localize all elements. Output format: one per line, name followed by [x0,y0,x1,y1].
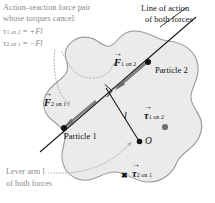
torque-2-on-1-symbol: τ [132,168,137,179]
force-1-on-2-symbol: F [114,57,121,68]
torque-1-on-2-out-of-page-dot [162,124,168,130]
equation-torque-2-on-1: τ2 on 1 = −Fl [3,39,43,48]
equation-torque-1-on-2: τ1 on 2 = +Fl [3,27,43,36]
annotation-bottom-left-line2: of both forces [6,179,52,189]
origin-dot [137,139,143,145]
annotation-top-right-line1: Line of action [141,3,189,14]
annotation-top-left-line2: whose torques cancel: [3,14,76,24]
equation-1-relation: = [23,27,28,36]
annotation-top-right-line2: of both forces [145,14,193,25]
equation-1-value: +Fl [30,27,43,36]
force-2-on-1-symbol: F [44,97,51,108]
into-page-icon: ✖ [121,171,128,180]
equation-1-subscript: 1 on 2 [6,29,20,35]
annotation-top-left-line1: Action–reaction force pair [3,3,91,13]
particle-2-dot [145,59,151,65]
force-2-on-1-label: F2 on 1 [44,97,66,108]
torque-1-on-2-label: τ1 on 2 [144,110,164,121]
equation-2-subscript: 2 on 1 [6,41,20,47]
torque-1-on-2-subscript: 1 on 2 [149,114,164,120]
equation-2-value: −Fl [30,39,43,48]
force-1-on-2-subscript: 1 on 2 [121,61,136,67]
force-1-on-2-label: F1 on 2 [114,57,136,68]
torque-2-on-1-subscript: 2 on 1 [137,172,152,178]
torque-2-on-1-label: τ2 on 1 [132,168,152,179]
lever-arm-label: l [124,110,127,121]
annotation-bottom-left-line1: Lever arm l [6,167,45,177]
force-2-on-1-subscript: 2 on 1 [51,101,66,107]
physics-diagram: Action–reaction force pair whose torques… [0,0,215,203]
torque-1-on-2-symbol: τ [144,110,149,121]
particle-2-label: Particle 2 [155,65,188,75]
particle-1-label: Particle 1 [64,131,97,141]
equation-2-relation: = [23,39,28,48]
origin-label: O [145,136,152,146]
rigid-body-blob [44,31,202,182]
